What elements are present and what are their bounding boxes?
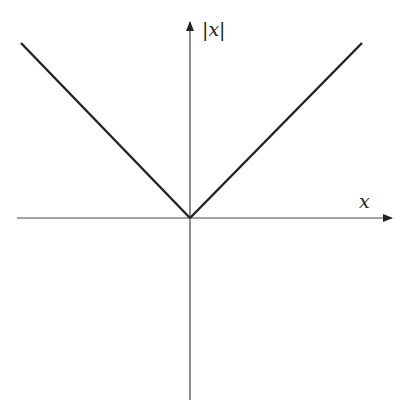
y-axis-label: |x| (202, 18, 226, 41)
left-branch-line (21, 43, 190, 218)
x-axis-label: x (359, 190, 370, 212)
abs-value-graph: |x| x (0, 0, 406, 416)
right-branch-line (190, 43, 362, 218)
